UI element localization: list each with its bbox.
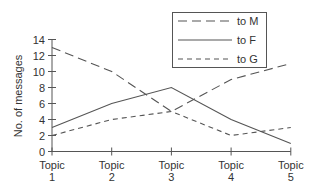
series-line-to-g: [52, 112, 291, 136]
legend: to Mto Fto G: [173, 13, 267, 68]
x-tick-label-line: Topic: [39, 159, 65, 171]
x-tick-label: Topic3: [159, 159, 185, 183]
x-tick-label-line: 1: [49, 171, 55, 183]
x-tick-label: Topic2: [99, 159, 125, 183]
legend-label: to F: [237, 34, 256, 46]
y-tick-label: 8: [39, 82, 45, 94]
x-tick-label-line: 4: [228, 171, 234, 183]
line-chart: No. of messages 02468101214 Topic1Topic2…: [0, 0, 318, 193]
x-tick-label: Topic4: [218, 159, 244, 183]
x-tick-label-line: Topic: [159, 159, 185, 171]
y-tick-label: 4: [39, 114, 45, 126]
y-tick-label: 12: [33, 50, 45, 62]
x-tick-label-line: Topic: [278, 159, 304, 171]
x-tick-label: Topic5: [278, 159, 304, 183]
x-tick-label-line: Topic: [218, 159, 244, 171]
series-line-to-f: [52, 88, 291, 144]
legend-label: to M: [237, 15, 258, 27]
y-tick-label: 0: [39, 146, 45, 158]
x-tick-label-line: Topic: [99, 159, 125, 171]
x-tick-label-line: 2: [109, 171, 115, 183]
y-tick-label: 2: [39, 130, 45, 142]
x-tick-label: Topic1: [39, 159, 65, 183]
y-axis-label: No. of messages: [12, 54, 24, 137]
y-tick-label: 6: [39, 98, 45, 110]
x-ticks: Topic1Topic2Topic3Topic4Topic5: [39, 148, 304, 183]
legend-label: to G: [237, 53, 258, 65]
y-tick-label: 14: [33, 34, 45, 46]
y-tick-label: 10: [33, 66, 45, 78]
x-tick-label-line: 3: [168, 171, 174, 183]
y-ticks: 02468101214: [33, 34, 56, 158]
x-tick-label-line: 5: [288, 171, 294, 183]
